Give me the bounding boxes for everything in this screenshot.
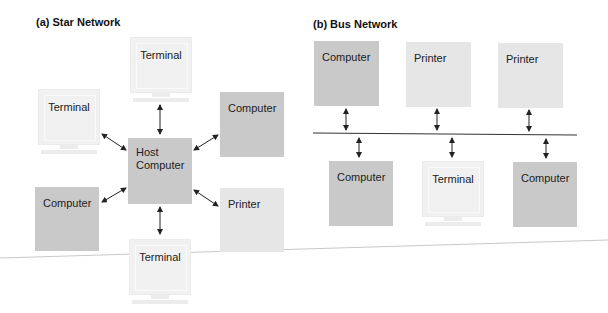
star-network-title: (a) Star Network (36, 16, 120, 28)
star-computer-lower-left: Computer (35, 187, 99, 251)
bus-printer-top-3: Printer (498, 43, 563, 108)
node-label: Computer (337, 171, 385, 184)
node-label: Printer (506, 53, 538, 66)
bus-network-title: (b) Bus Network (313, 18, 397, 30)
node-label: Terminal (129, 251, 191, 263)
bus-computer-top-1: Computer (314, 41, 379, 106)
host-label-line1: Host (136, 146, 159, 159)
star-printer-lower-right: Printer (220, 188, 284, 252)
host-label-line2: Computer (136, 159, 184, 172)
node-label: Printer (228, 198, 260, 211)
star-computer-upper-right: Computer (220, 92, 284, 157)
node-label: Terminal (422, 173, 484, 185)
bus-printer-top-2: Printer (406, 42, 471, 107)
node-label: Computer (322, 51, 370, 64)
star-host-computer: Host Computer (128, 138, 192, 204)
node-label: Computer (521, 172, 569, 185)
bus-computer-bottom-1: Computer (329, 161, 393, 226)
node-label: Computer (228, 102, 276, 115)
bus-computer-bottom-3: Computer (513, 162, 577, 227)
node-label: Terminal (38, 101, 100, 113)
node-label: Computer (43, 197, 91, 210)
node-label: Terminal (130, 49, 192, 61)
node-label: Printer (414, 52, 446, 65)
